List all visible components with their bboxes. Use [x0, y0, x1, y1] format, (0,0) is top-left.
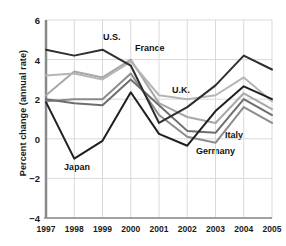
plot-area	[0, 0, 286, 246]
line-chart: Percent change (annual rate) 6420−2−4 19…	[0, 0, 286, 246]
gridlines	[46, 20, 272, 218]
